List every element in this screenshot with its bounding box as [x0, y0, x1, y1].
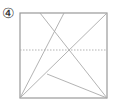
main-diagonal-line: [20, 13, 107, 98]
top-left-diagonal-line: [40, 13, 107, 98]
geometry-diagram: [0, 0, 116, 99]
top-right-diagonal-line: [20, 13, 64, 98]
